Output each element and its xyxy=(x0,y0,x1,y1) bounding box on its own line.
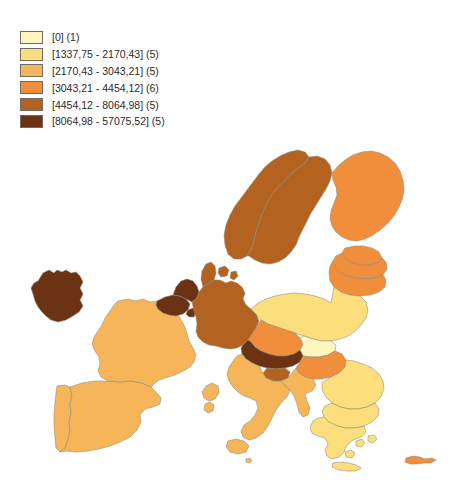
legend-item[interactable]: [2170,43 - 3043,21] (5) xyxy=(20,63,260,80)
country-spain[interactable] xyxy=(60,381,161,452)
legend-label-class-1: [1337,75 - 2170,43] (5) xyxy=(52,48,159,60)
legend-label-class-5: [8064,98 - 57075,52] (5) xyxy=(52,115,165,127)
legend-label-class-2: [2170,43 - 3043,21] (5) xyxy=(52,65,159,77)
legend-item[interactable]: [0] (1) xyxy=(20,29,260,46)
legend-item[interactable]: [4454,12 - 8064,98] (5) xyxy=(20,96,260,113)
legend-label-class-4: [4454,12 - 8064,98] (5) xyxy=(52,99,159,111)
legend-swatch-class-2 xyxy=(20,64,43,77)
country-layer xyxy=(31,150,436,471)
legend-item[interactable]: [3043,21 - 4454,12] (6) xyxy=(20,79,260,96)
legend-swatch-class-4 xyxy=(20,98,43,111)
legend-swatch-class-1 xyxy=(20,48,43,61)
map-legend: [0] (1) [1337,75 - 2170,43] (5) [2170,43… xyxy=(20,29,260,130)
country-ireland[interactable] xyxy=(31,270,83,322)
legend-swatch-class-5 xyxy=(20,115,43,128)
legend-swatch-class-0 xyxy=(20,31,43,44)
legend-label-class-0: [0] (1) xyxy=(52,31,79,43)
country-cyprus[interactable] xyxy=(405,456,436,464)
choropleth-map-figure: [0] (1) [1337,75 - 2170,43] (5) [2170,43… xyxy=(0,0,453,484)
legend-item[interactable]: [1337,75 - 2170,43] (5) xyxy=(20,46,260,63)
country-malta[interactable] xyxy=(246,458,252,463)
legend-swatch-class-3 xyxy=(20,81,43,94)
legend-label-class-3: [3043,21 - 4454,12] (6) xyxy=(52,82,159,94)
country-finland[interactable] xyxy=(330,151,404,241)
legend-item[interactable]: [8064,98 - 57075,52] (5) xyxy=(20,113,260,130)
